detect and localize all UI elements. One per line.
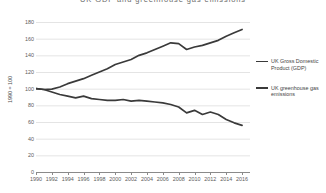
y-tick-label: 160 [18,36,34,42]
legend-entry-emissions: UK greenhouse gas emissions [256,85,326,99]
y-tick-label: 0 [18,169,34,175]
chart-legend: UK Gross Domestic Product (GDP) UK green… [256,58,326,111]
x-tick-label: 2016 [230,176,254,183]
legend-entry-gdp: UK Gross Domestic Product (GDP) [256,58,326,72]
y-tick-label: 120 [18,69,34,75]
chart-figure: UK GDP and greenhouse gas emissions 0204… [0,0,326,193]
plot-area [36,22,250,172]
x-tick-mark [242,172,243,175]
x-tick-mark [115,172,116,175]
legend-swatch-emissions [256,87,268,89]
x-tick-mark [210,172,211,175]
gridlines [36,23,250,156]
x-tick-mark [99,172,100,175]
legend-swatch-gdp [256,61,268,63]
x-tick-mark [52,172,53,175]
y-tick-label: 80 [18,102,34,108]
y-tick-label: 40 [18,136,34,142]
x-tick-mark [179,172,180,175]
data-series [36,30,242,126]
y-tick-label: 140 [18,52,34,58]
x-tick-mark [36,172,37,175]
y-tick-label: 20 [18,152,34,158]
x-tick-mark [131,172,132,175]
series-line-gdp [36,30,242,90]
y-tick-label: 60 [18,119,34,125]
x-axis-tick-labels: 1990199219941996199820002002200420062008… [36,176,250,186]
y-axis-title: 1990 = 100 [7,67,14,113]
x-tick-mark [68,172,69,175]
x-tick-mark [226,172,227,175]
x-tick-mark [84,172,85,175]
plot-canvas [36,22,250,172]
legend-label-gdp: UK Gross Domestic Product (GDP) [271,58,318,71]
series-line-emissions [36,89,242,126]
y-axis-tick-labels: 020406080100120140160180 [14,0,34,193]
x-tick-mark [195,172,196,175]
x-tick-mark [163,172,164,175]
x-tick-mark [147,172,148,175]
chart-title: UK GDP and greenhouse gas emissions [0,0,326,5]
y-tick-label: 180 [18,19,34,25]
y-tick-label: 100 [18,86,34,92]
legend-label-emissions: UK greenhouse gas emissions [271,85,319,98]
